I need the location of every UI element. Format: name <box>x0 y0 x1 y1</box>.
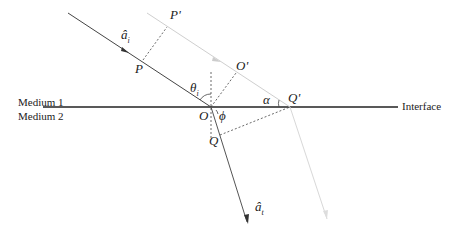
wavefront-PP <box>143 27 167 60</box>
medium2-label: Medium 2 <box>18 110 64 122</box>
point-P-label: P <box>135 61 143 77</box>
transmitted-unit-vector-label: ât <box>255 199 264 217</box>
refraction-diagram: Medium 1 Medium 2 Interface âi P P' θi O… <box>0 0 460 232</box>
parallel-incident-arrow-icon <box>212 57 221 62</box>
point-Q-label: Q <box>209 133 218 149</box>
phi-arc <box>216 110 218 114</box>
theta-i-label: θi <box>190 80 199 98</box>
diagram-canvas <box>0 0 460 232</box>
interface-label: Interface <box>402 100 441 112</box>
phi-label: ϕ <box>219 108 226 124</box>
point-O-prime-label: O' <box>236 58 248 74</box>
transmitted-ray <box>211 107 247 222</box>
point-Q-prime-label: Q' <box>288 90 300 106</box>
wavefront-OO <box>211 73 236 107</box>
incident-unit-vector-label: âi <box>121 27 130 45</box>
parallel-transmitted-ray <box>290 107 327 219</box>
transmitted-arrow-icon <box>244 214 249 224</box>
alpha-arc <box>278 100 279 107</box>
alpha-label: α <box>263 92 270 108</box>
point-O-label: O <box>199 108 208 124</box>
incident-arrow-icon <box>121 47 129 53</box>
point-P-prime-label: P' <box>170 7 181 23</box>
wavefront-QQ <box>220 107 290 135</box>
theta-arc <box>200 94 211 100</box>
parallel-transmitted-arrow-icon <box>323 210 328 219</box>
medium1-label: Medium 1 <box>18 96 64 108</box>
